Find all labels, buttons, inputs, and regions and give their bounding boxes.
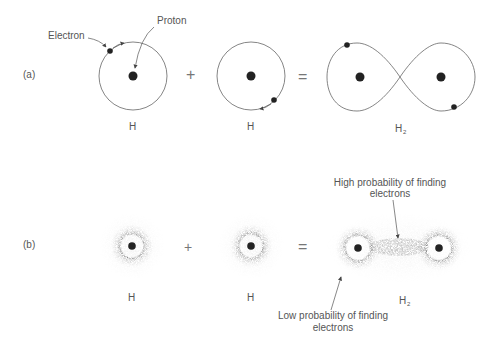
electron-icon xyxy=(271,97,277,103)
molecule-caption-subscript: 2 xyxy=(407,301,411,307)
proton-annotation: Proton xyxy=(157,15,186,26)
atom-1-caption: H xyxy=(128,292,135,303)
electron-icon xyxy=(107,48,113,54)
atom-2-caption: H xyxy=(247,121,254,132)
plus-operator: + xyxy=(186,66,195,83)
electron-icon xyxy=(344,42,350,48)
plus-operator: + xyxy=(184,239,192,255)
panel-a-label: (a) xyxy=(23,69,35,80)
proton-icon xyxy=(247,242,255,250)
hydrogen-atom-1-cloud xyxy=(98,212,166,280)
hydrogen-atom-2-orbit xyxy=(217,42,285,110)
molecule-caption: H xyxy=(395,123,402,134)
equals-operator: = xyxy=(298,238,307,255)
proton-icon xyxy=(435,244,443,252)
high-probability-label-line-1: High probability of finding xyxy=(334,177,446,188)
proton-icon xyxy=(247,72,256,81)
diagram-canvas: (a) Electron Proton H + H = H 2 (b) H + xyxy=(0,0,493,350)
proton-icon xyxy=(437,73,446,82)
atom-1-caption: H xyxy=(129,121,136,132)
h2-molecule-orbit xyxy=(327,42,475,111)
hydrogen-atom-1-orbit xyxy=(99,42,167,110)
low-probability-label-line-2: electrons xyxy=(313,322,354,333)
h2-molecule-cloud xyxy=(324,212,474,284)
electron-icon xyxy=(451,104,457,110)
proton-icon xyxy=(354,244,362,252)
proton-icon xyxy=(129,72,138,81)
proton-icon xyxy=(128,242,136,250)
equals-operator: = xyxy=(298,68,307,85)
atom-2-caption: H xyxy=(247,292,254,303)
low-probability-pointer-arrow-icon xyxy=(331,277,341,310)
high-probability-label-line-2: electrons xyxy=(370,188,411,199)
electron-pointer-arrow-icon xyxy=(88,38,106,47)
hydrogen-atom-2-cloud xyxy=(217,212,285,280)
molecule-caption: H xyxy=(399,295,406,306)
low-probability-label-line-1: Low probability of finding xyxy=(278,310,388,321)
panel-b-label: (b) xyxy=(23,239,35,250)
electron-annotation: Electron xyxy=(48,30,85,41)
proton-icon xyxy=(356,73,365,82)
molecule-caption-subscript: 2 xyxy=(403,129,407,135)
